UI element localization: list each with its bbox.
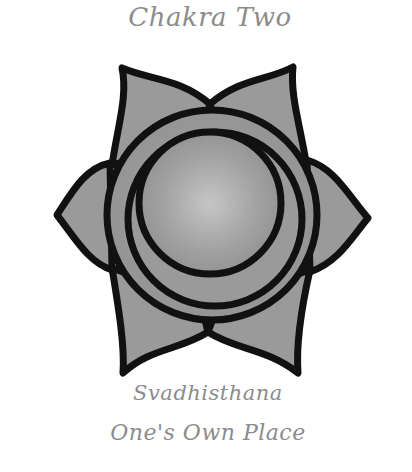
sanskrit-name: Svadhisthana — [2, 381, 412, 405]
inner-sphere — [139, 132, 281, 274]
chakra-meaning: One's Own Place — [2, 420, 412, 445]
